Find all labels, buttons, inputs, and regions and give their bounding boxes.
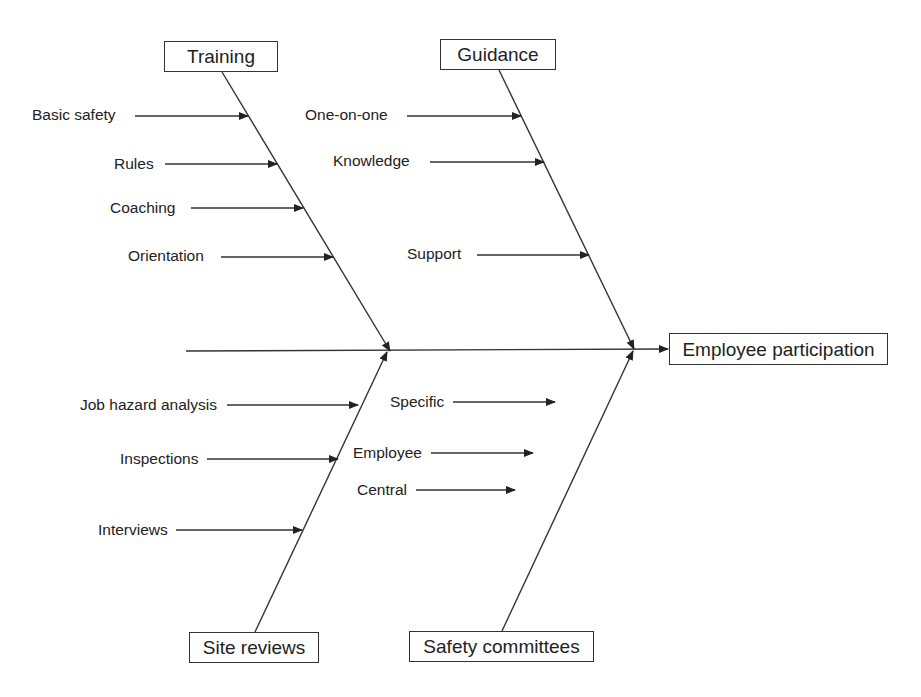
cause-label: One-on-one (305, 106, 388, 124)
cause-label: Knowledge (333, 152, 410, 170)
effect-box: Employee participation (669, 333, 888, 365)
category-box-site-reviews: Site reviews (189, 632, 319, 663)
cause-label: Rules (114, 155, 154, 173)
cause-label: Orientation (128, 247, 204, 265)
cause-label: Support (407, 245, 461, 263)
cause-label: Interviews (98, 521, 168, 539)
safety-committees-bone (502, 351, 633, 631)
cause-label: Job hazard analysis (80, 396, 217, 414)
category-box-safety-committees: Safety committees (409, 631, 594, 662)
spine-line (186, 349, 668, 351)
category-label: Training (187, 47, 255, 66)
category-label: Safety committees (423, 637, 579, 656)
effect-label: Employee participation (682, 340, 874, 359)
cause-label: Basic safety (32, 106, 116, 124)
category-box-training: Training (164, 41, 278, 72)
category-label: Site reviews (203, 638, 305, 657)
cause-label: Employee (353, 444, 422, 462)
cause-label: Central (357, 481, 407, 499)
category-label: Guidance (457, 45, 538, 64)
cause-label: Coaching (110, 199, 176, 217)
category-box-guidance: Guidance (440, 39, 556, 70)
cause-label: Specific (390, 393, 444, 411)
cause-label: Inspections (120, 450, 198, 468)
guidance-bone (499, 70, 634, 349)
